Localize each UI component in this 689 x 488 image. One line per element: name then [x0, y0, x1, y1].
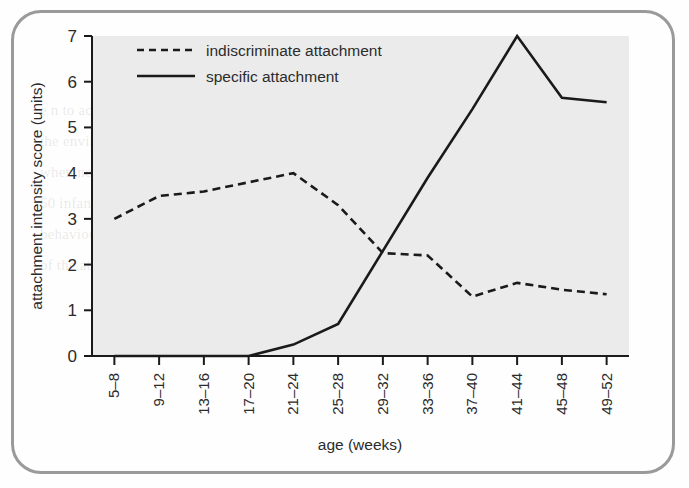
y-tick-label: 3	[68, 210, 77, 229]
y-axis-title: attachment intensity score (units)	[28, 82, 45, 309]
x-tick-label: 21–24	[284, 373, 301, 415]
x-tick-label: 29–32	[374, 373, 391, 415]
y-tick-label: 2	[68, 256, 77, 275]
x-tick-label: 37–40	[463, 373, 480, 415]
x-tick-label: 9–12	[150, 373, 167, 406]
x-tick-label: 17–20	[240, 373, 257, 415]
x-tick-label: 49–52	[598, 373, 615, 415]
legend-label-indiscriminate: indiscriminate attachment	[206, 42, 382, 59]
y-tick-label: 4	[68, 164, 77, 183]
x-tick-label: 45–48	[553, 373, 570, 415]
x-tick-label: 25–28	[329, 373, 346, 415]
chart-svg: 01234567 5–89–1213–1617–2021–2425–2829–3…	[0, 0, 689, 488]
x-axis-ticks: 5–89–1213–1617–2021–2425–2829–3233–3637–…	[105, 356, 614, 415]
chart-figure: 01234567 5–89–1213–1617–2021–2425–2829–3…	[0, 0, 689, 488]
x-axis-title: age (weeks)	[318, 436, 402, 453]
x-tick-label: 5–8	[105, 373, 122, 398]
x-tick-label: 13–16	[195, 373, 212, 415]
y-tick-label: 0	[68, 347, 77, 366]
figure-page: e n to act as a secure base, so that the…	[0, 0, 689, 488]
x-tick-label: 41–44	[508, 373, 525, 415]
legend-label-specific: specific attachment	[206, 68, 339, 85]
y-tick-label: 1	[68, 301, 77, 320]
y-tick-label: 6	[68, 73, 77, 92]
y-tick-label: 7	[68, 27, 77, 46]
y-tick-label: 5	[68, 118, 77, 137]
y-axis-ticks: 01234567	[68, 27, 92, 366]
plot-background	[92, 36, 629, 356]
x-tick-label: 33–36	[419, 373, 436, 415]
